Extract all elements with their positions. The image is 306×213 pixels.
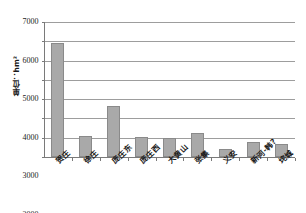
y-tick-label: 7000 bbox=[23, 18, 39, 26]
bar bbox=[51, 43, 64, 157]
plot-area: 01000200030004000500060007000 bbox=[44, 22, 295, 158]
x-tick-mark bbox=[295, 158, 296, 161]
y-tick-label: 3000 bbox=[23, 172, 39, 180]
y-tick-label: 2000 bbox=[23, 211, 39, 213]
bar-series bbox=[44, 22, 295, 158]
x-axis-labels: 贺庄徐庄庞庄东庞庄西大黄山张集义安新河-韩?垞城 bbox=[44, 160, 295, 212]
y-tick-label: 4000 bbox=[23, 134, 39, 142]
y-tick-label: 5000 bbox=[23, 95, 39, 103]
y-tick-label: 6000 bbox=[23, 57, 39, 65]
bar-chart: 单位：hm² 01000200030004000500060007000 贺庄徐… bbox=[0, 0, 306, 213]
